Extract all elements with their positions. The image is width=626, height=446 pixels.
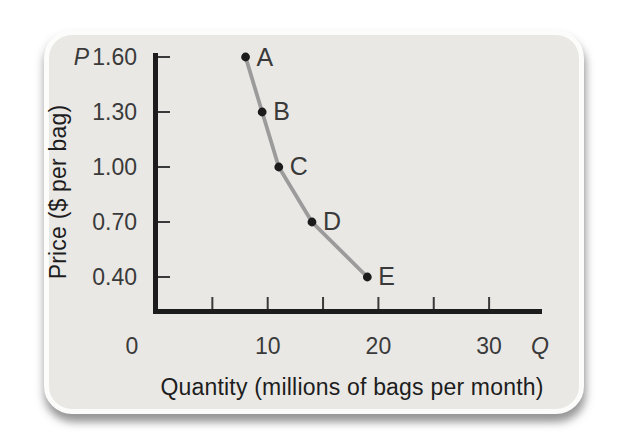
- x-tick-label-10: 10: [255, 333, 281, 359]
- y-tick-label-1.60: 1.60: [92, 44, 137, 70]
- quantity-axis-letter: Q: [531, 333, 549, 359]
- point-dot-C: [274, 163, 283, 172]
- y-tick-label-0.40: 0.40: [92, 264, 137, 290]
- point-dot-A: [241, 53, 250, 62]
- point-label-A: A: [257, 43, 274, 71]
- figure-page: ABCDE0102030Q1.601.301.000.700.40P Price…: [0, 0, 626, 446]
- y-tick-label-0.70: 0.70: [92, 209, 137, 235]
- point-label-B: B: [273, 97, 290, 125]
- point-dot-E: [363, 273, 372, 282]
- point-dot-D: [308, 218, 317, 227]
- point-label-D: D: [323, 207, 341, 235]
- point-dot-B: [258, 108, 267, 117]
- y-axis-title: Price ($ per bag): [45, 105, 72, 280]
- y-tick-label-1.30: 1.30: [92, 99, 137, 125]
- point-label-E: E: [378, 262, 395, 290]
- x-tick-label-30: 30: [476, 333, 502, 359]
- price-axis-letter: P: [74, 44, 90, 70]
- x-tick-label-20: 20: [366, 333, 392, 359]
- x-axis-title: Quantity (millions of bags per month): [160, 374, 543, 401]
- x-tick-label-0: 0: [126, 333, 139, 359]
- axes-lines: [156, 53, 543, 312]
- point-label-C: C: [290, 152, 308, 180]
- y-tick-label-1.00: 1.00: [92, 154, 137, 180]
